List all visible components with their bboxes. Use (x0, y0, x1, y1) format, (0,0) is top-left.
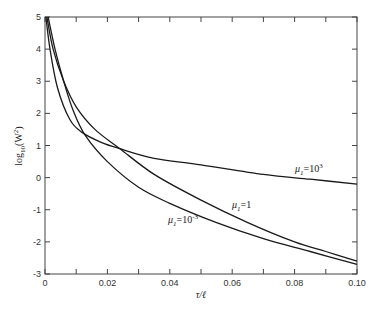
series-curves (46, 17, 357, 264)
y-tick-label: 2 (36, 108, 41, 118)
series-line (46, 17, 357, 184)
x-tick-label: 0 (42, 278, 47, 288)
x-tick-label: 0.06 (223, 278, 241, 288)
plot-area-border (45, 17, 357, 274)
annotation-mu-1: μ1=1 (231, 199, 251, 213)
x-tick-label: 0.04 (161, 278, 179, 288)
y-tick-label: 5 (36, 12, 41, 22)
y-tick-label: -2 (33, 237, 41, 247)
plot-frame (45, 17, 357, 274)
y-tick-label: -3 (33, 269, 41, 279)
x-axis-title: τ/ℓ (196, 289, 207, 300)
x-tick-label: 0.08 (286, 278, 304, 288)
annotation-mu-1e3: μ1=103 (294, 162, 323, 177)
y-tick-label: 0 (36, 173, 41, 183)
y-tick-label: -1 (33, 205, 41, 215)
annotation-mu-1e-3: μ1=10-3 (167, 213, 199, 228)
x-tick-label: 0.10 (348, 278, 366, 288)
y-axis-title: log10(W2) (12, 126, 27, 165)
x-axis-ticks: 00.020.040.060.080.10 (42, 17, 365, 288)
y-tick-label: 1 (36, 141, 41, 151)
line-chart: 00.020.040.060.080.10 -3-2-1012345 τ/ℓ l… (0, 0, 378, 312)
y-tick-label: 4 (36, 44, 41, 54)
series-line (48, 17, 357, 264)
y-axis-ticks: -3-2-1012345 (33, 12, 357, 279)
x-tick-label: 0.02 (99, 278, 117, 288)
y-tick-label: 3 (36, 76, 41, 86)
